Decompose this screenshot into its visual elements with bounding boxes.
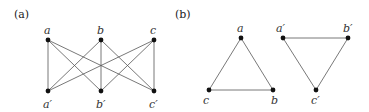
panel-a-label: (a) [14,8,29,21]
diagram-canvas: (a) a b c a′ b′ c′ (b) [0,0,369,112]
node-c [207,88,212,93]
edge-c-prime-a-prime [283,38,316,90]
edge-a-b [241,38,273,90]
panel-a-edges [48,40,154,91]
node-b-prime [99,89,104,94]
node-a [46,38,51,43]
label-c: c [150,24,156,37]
label-c: c [203,94,209,107]
panel-a: (a) a b c a′ b′ c′ [14,8,158,111]
panel-b-label: (b) [175,8,191,21]
label-c-prime: c′ [149,98,158,111]
node-a-prime [281,36,286,41]
label-c-prime: c′ [311,94,320,107]
label-b: b [97,24,104,37]
edge-b-prime-c-prime [316,38,348,90]
label-a-prime: a′ [43,98,53,111]
node-b-prime [346,36,351,41]
node-c [152,38,157,43]
node-a-prime [46,89,51,94]
label-a: a [44,24,51,37]
label-b: b [271,94,278,107]
node-b [99,38,104,43]
label-a: a [237,22,244,35]
label-a-prime: a′ [276,22,286,35]
panel-b-edges [209,38,348,90]
node-b [271,88,276,93]
label-b-prime: b′ [96,98,106,111]
edge-c-a [209,38,241,90]
panel-b: (b) a b c a′ b′ c′ [175,8,353,107]
node-c-prime [152,89,157,94]
label-b-prime: b′ [343,22,353,35]
node-a [239,36,244,41]
node-c-prime [314,88,319,93]
